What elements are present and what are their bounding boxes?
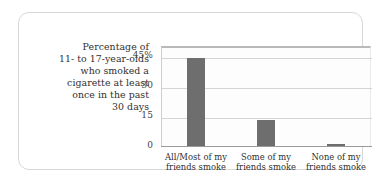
- caption-line: who smoked a: [41, 65, 149, 77]
- y-tick-label: 30: [119, 80, 153, 90]
- y-tick-label: 45%: [119, 50, 153, 60]
- x-tick-label-line: friends smoke: [286, 162, 381, 172]
- y-tick-label: 0: [119, 140, 153, 150]
- x-tick-label: None of myfriends smoke: [286, 152, 381, 173]
- chart-card: Percentage of 11- to 17-year-olds who sm…: [18, 12, 363, 170]
- bar: [257, 120, 275, 146]
- bar: [327, 144, 345, 146]
- x-tick-label-line: None of my: [286, 152, 381, 162]
- y-tick-label: 15: [119, 110, 153, 120]
- chart-screenshot: Percentage of 11- to 17-year-olds who sm…: [0, 0, 381, 184]
- bar: [187, 58, 205, 146]
- caption-line: once in the past: [41, 89, 149, 101]
- x-axis-line: [161, 146, 372, 147]
